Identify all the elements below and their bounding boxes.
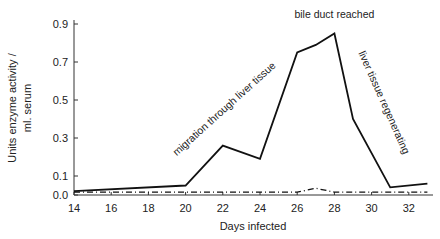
annotation-0: migration through liver tissue [170,59,278,158]
y-axis-label-line-2: ml. serum [21,84,33,132]
x-tick-label: 32 [403,202,415,214]
series-solid-line [74,34,427,192]
x-tick-label: 14 [68,202,80,214]
y-tick-label: 0.3 [53,132,68,144]
y-tick-label: 0.7 [53,56,68,68]
y-tick-label: 0.5 [53,94,68,106]
x-tick-label: 28 [328,202,340,214]
x-tick-label: 24 [254,202,266,214]
x-tick-label: 30 [365,202,377,214]
x-tick-label: 20 [179,202,191,214]
x-tick-label: 22 [217,202,229,214]
y-axis-title: Units enzyme activity / ml. serum [6,52,33,162]
y-tick-label: 0.0 [53,189,68,201]
y-axis-label-line-1: Units enzyme activity / [6,52,18,162]
series-lines [74,34,427,193]
x-axis-label: Days infected [220,220,287,232]
y-tick-label: 0.1 [53,170,68,182]
enzyme-activity-chart: Units enzyme activity / ml. serum 0.00.1… [0,0,440,239]
annotation-1: bile duct reached [294,8,374,20]
x-tick-label: 16 [105,202,117,214]
x-tick-label: 26 [291,202,303,214]
x-tick-label: 18 [142,202,154,214]
annotations: migration through liver tissuebile duct … [170,8,413,157]
y-tick-label: 0.9 [53,18,68,30]
